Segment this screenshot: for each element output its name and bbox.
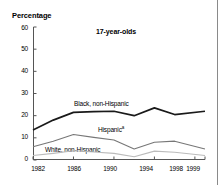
series-line-hispanic xyxy=(33,135,205,149)
y-tick-label-0: 0 xyxy=(14,155,28,162)
plot-area xyxy=(33,27,205,160)
x-tick-label-1994: 1994 xyxy=(131,165,161,172)
plot-svg xyxy=(33,27,205,160)
y-tick-label-10: 10 xyxy=(14,133,28,140)
chart-figure: Percentage 17-year-olds 60 50 40 30 20 1… xyxy=(0,0,218,185)
x-tick-label-1982: 1982 xyxy=(23,165,53,172)
y-tick-label-50: 50 xyxy=(14,45,28,52)
x-tick-label-1986: 1986 xyxy=(59,165,89,172)
y-tick-label-30: 30 xyxy=(14,89,28,96)
y-tick-label-40: 40 xyxy=(14,67,28,74)
series-line-white-non-hispanic xyxy=(33,151,205,157)
y-tick-label-20: 20 xyxy=(14,111,28,118)
figure-right-rule xyxy=(217,0,218,185)
x-tick-label-1990: 1990 xyxy=(95,165,125,172)
series-line-black-non-hispanic xyxy=(33,108,205,130)
y-tick-label-60: 60 xyxy=(14,24,28,31)
y-axis-label: Percentage xyxy=(12,11,51,20)
x-tick-label-1999: 1999 xyxy=(178,165,208,172)
